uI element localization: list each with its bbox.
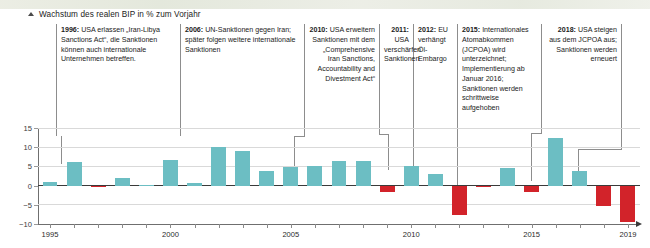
annotation-2018[interactable]: 2018: USA steigen aus dem JCPOA aus; San… (542, 26, 621, 65)
annotation-2012[interactable]: 2012: EU verhängt Öl-Embargo (414, 26, 457, 65)
bar-1999[interactable] (139, 185, 154, 186)
y-tick-label: 15 (0, 124, 32, 133)
bar-2014[interactable] (500, 168, 515, 185)
x-tick-mark (556, 224, 557, 228)
bar-1998[interactable] (115, 178, 130, 185)
y-tick-mark (34, 147, 38, 148)
bar-2010[interactable] (404, 166, 419, 185)
x-tick-mark (387, 224, 388, 228)
x-tick-mark (580, 224, 581, 228)
annotation-2015[interactable]: 2015: Internationales Atomabkommen (JCPO… (458, 26, 541, 114)
x-tick-mark (604, 224, 605, 228)
annotation-2010[interactable]: 2010: USA erweitern Sanktionen mit dem „… (305, 26, 379, 85)
bar-2018[interactable] (596, 186, 611, 207)
bar-chart: 199520002005201020152019 151050−5−10 (0, 128, 650, 248)
annotation-2018-year: 2018: (558, 26, 576, 34)
bar-2002[interactable] (211, 147, 226, 185)
x-tick-mark (339, 224, 340, 228)
right-arrow-icon (636, 221, 642, 227)
x-tick-mark (219, 224, 220, 228)
x-tick-mark (291, 224, 292, 228)
x-tick-label: 2000 (162, 230, 179, 239)
bar-2013[interactable] (476, 186, 491, 188)
x-tick-label: 2019 (620, 230, 637, 239)
x-tick-mark (363, 224, 364, 228)
bar-2016[interactable] (548, 138, 563, 186)
plot-area (38, 128, 640, 224)
bar-series (38, 128, 640, 224)
x-tick-mark (146, 224, 147, 228)
x-tick-mark (459, 224, 460, 228)
x-tick-label: 2005 (282, 230, 299, 239)
bar-1995[interactable] (43, 182, 58, 186)
annotation-2006[interactable]: 2006: UN-Sanktionen gegen Iran; später f… (181, 26, 303, 55)
bar-2001[interactable] (187, 183, 202, 185)
x-tick-mark (315, 224, 316, 228)
x-tick-mark (628, 224, 629, 228)
x-tick-mark (98, 224, 99, 228)
bar-2015[interactable] (524, 186, 539, 192)
bar-2012[interactable] (452, 186, 467, 216)
bar-1996[interactable] (67, 162, 82, 185)
y-tick-mark (34, 166, 38, 167)
bar-2017[interactable] (572, 171, 587, 185)
x-axis: 199520002005201020152019 (38, 224, 644, 248)
annotation-2010-year: 2010: (310, 26, 328, 34)
annotation-2015-year: 2015: (462, 26, 480, 34)
x-tick-mark (195, 224, 196, 228)
bar-1997[interactable] (91, 186, 106, 188)
x-tick-mark (74, 224, 75, 228)
annotation-2011-year: 2011: (391, 26, 409, 34)
bar-2004[interactable] (259, 171, 274, 186)
x-tick-mark (50, 224, 51, 228)
x-tick-mark (483, 224, 484, 228)
infographic-root: Wachstum des realen BIP in % zum Vorjahr… (0, 0, 650, 248)
annotation-layer: 1996: USA erlassen „Iran-Libya Sanctions… (0, 0, 650, 136)
x-tick-mark (170, 224, 171, 228)
annotation-1996-year: 1996: (61, 26, 79, 34)
x-tick-mark (411, 224, 412, 228)
bar-2009[interactable] (380, 186, 395, 193)
x-tick-mark (532, 224, 533, 228)
y-tick-label: 5 (0, 162, 32, 171)
y-tick-label: 0 (0, 181, 32, 190)
bar-2006[interactable] (307, 166, 322, 185)
annotation-2011[interactable]: 2011: USA verschärfen Sanktionen (380, 26, 413, 65)
bar-2019[interactable] (620, 186, 635, 222)
y-tick-label: −10 (0, 220, 32, 229)
y-tick-mark (34, 224, 38, 225)
bar-2000[interactable] (163, 160, 178, 186)
y-tick-label: 10 (0, 143, 32, 152)
annotation-2010-text: USA erweitern Sanktionen mit dem „Compre… (312, 26, 375, 83)
x-tick-label: 1995 (42, 230, 59, 239)
x-axis-line (38, 224, 636, 225)
x-tick-mark (267, 224, 268, 228)
y-tick-mark (34, 205, 38, 206)
x-tick-label: 2015 (523, 230, 540, 239)
y-tick-mark (34, 128, 38, 129)
y-tick-label: −5 (0, 200, 32, 209)
callout-rule-2018-right (621, 24, 622, 120)
annotation-2015-text: Internationales Atomabkommen (JCPOA) wir… (462, 26, 529, 112)
x-tick-mark (122, 224, 123, 228)
x-tick-label: 2010 (403, 230, 420, 239)
annotation-2012-year: 2012: (418, 26, 436, 34)
annotation-2006-year: 2006: (185, 26, 203, 34)
bar-2005[interactable] (283, 167, 298, 186)
bar-2011[interactable] (428, 174, 443, 186)
annotation-1996[interactable]: 1996: USA erlassen „Iran-Libya Sanctions… (57, 26, 179, 65)
bar-2003[interactable] (235, 151, 250, 186)
bar-2008[interactable] (356, 161, 371, 186)
x-tick-mark (435, 224, 436, 228)
bar-2007[interactable] (332, 161, 347, 186)
x-tick-mark (508, 224, 509, 228)
y-tick-mark (34, 186, 38, 187)
x-tick-mark (243, 224, 244, 228)
